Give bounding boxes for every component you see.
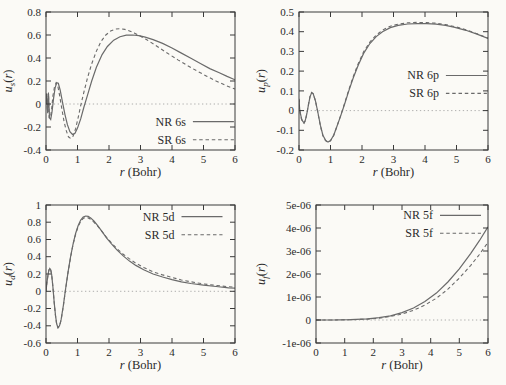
x-axis-label: r (Bohr)	[120, 358, 161, 372]
x-tick-label: 5	[457, 346, 463, 358]
figure-grid: 0123456-0.4-0.200.20.40.60.8r (Bohr)us(r…	[0, 0, 506, 385]
x-tick-label: 0	[296, 153, 302, 165]
x-tick-label: 6	[485, 346, 491, 358]
y-tick-label: 0	[306, 314, 312, 326]
x-axis-ticks: 0123456	[43, 12, 238, 165]
panel-5f-chart: 0123456-1e-0601e-062e-063e-064e-065e-06r…	[253, 193, 506, 385]
x-tick-label: 2	[106, 153, 112, 165]
x-tick-label: 6	[232, 153, 238, 165]
legend-label: NR 5f	[403, 208, 433, 222]
y-tick-label: 0	[289, 104, 295, 116]
x-tick-label: 6	[485, 153, 491, 165]
legend: NR 6sSR 6s	[156, 115, 234, 147]
x-axis-label: r (Bohr)	[381, 358, 422, 372]
y-tick-label: 0.8	[27, 216, 41, 228]
x-tick-label: 4	[422, 153, 428, 165]
curve-sr-5f	[316, 242, 488, 320]
x-axis-ticks: 0123456	[296, 12, 491, 165]
y-tick-label: -0.4	[24, 319, 42, 331]
chart-svg-bottom-left-5d: 0123456-0.6-0.4-0.200.20.40.60.81r (Bohr…	[0, 193, 253, 385]
panel-5d-chart: 0123456-0.6-0.4-0.200.20.40.60.81r (Bohr…	[0, 193, 253, 385]
x-axis-label: r (Bohr)	[120, 165, 161, 179]
x-axis-label: r (Bohr)	[373, 165, 414, 179]
x-tick-label: 3	[391, 153, 397, 165]
x-tick-label: 3	[138, 153, 144, 165]
x-tick-label: 6	[232, 346, 238, 358]
x-tick-label: 0	[313, 346, 319, 358]
y-axis-label: uf(r)	[254, 263, 270, 285]
panel-6p-chart: 0123456-0.2-0.100.10.20.30.40.5r (Bohr)u…	[253, 0, 506, 192]
x-tick-label: 4	[428, 346, 434, 358]
plot-frame	[46, 12, 235, 150]
y-tick-label: 1	[36, 199, 42, 211]
x-tick-label: 1	[75, 153, 81, 165]
y-tick-label: 0.3	[280, 45, 294, 57]
chart-svg-bottom-right-5f: 0123456-1e-0601e-062e-063e-064e-065e-06r…	[253, 193, 506, 385]
y-axis-ticks: -0.6-0.4-0.200.20.40.60.81	[24, 199, 235, 349]
series-group	[299, 22, 488, 142]
y-tick-label: 0.1	[280, 85, 294, 97]
curve-nr-5d	[46, 216, 235, 328]
y-axis-label: ud(r)	[1, 262, 17, 286]
x-tick-label: 2	[359, 153, 365, 165]
chart-svg-top-left-6s: 0123456-0.4-0.200.20.40.60.8r (Bohr)us(r…	[0, 0, 253, 192]
y-tick-label: -0.6	[24, 337, 42, 349]
curve-nr-5f	[316, 227, 488, 320]
x-tick-label: 5	[454, 153, 460, 165]
chart-svg-top-right-6p: 0123456-0.2-0.100.10.20.30.40.5r (Bohr)u…	[253, 0, 506, 192]
x-tick-label: 5	[201, 346, 207, 358]
legend: NR 6pSR 6p	[407, 68, 487, 100]
x-tick-label: 4	[169, 153, 175, 165]
y-tick-label: 0.4	[280, 25, 294, 37]
plot-frame	[46, 205, 235, 343]
x-tick-label: 3	[138, 346, 144, 358]
legend-label: NR 5d	[143, 210, 175, 224]
curve-sr-5d	[46, 218, 235, 328]
y-tick-label: 0.8	[27, 6, 41, 18]
x-tick-label: 2	[106, 346, 112, 358]
x-tick-label: 4	[169, 346, 175, 358]
y-tick-label: 0.6	[27, 29, 41, 41]
y-tick-label: 4e-06	[286, 222, 312, 234]
series-group	[316, 227, 488, 320]
legend-label: NR 6p	[407, 68, 439, 82]
x-tick-label: 3	[399, 346, 405, 358]
legend: NR 5fSR 5f	[403, 208, 481, 240]
x-tick-label: 1	[328, 153, 334, 165]
legend-label: SR 5f	[405, 226, 433, 240]
legend: NR 5dSR 5d	[143, 210, 223, 242]
legend-label: SR 5d	[145, 228, 175, 242]
legend-label: NR 6s	[156, 115, 187, 129]
series-group	[46, 216, 235, 328]
y-tick-label: -0.2	[277, 144, 294, 156]
y-tick-label: 0.4	[27, 250, 41, 262]
y-tick-label: 0	[36, 98, 42, 110]
y-tick-label: -0.1	[277, 124, 294, 136]
y-axis-label: up(r)	[254, 69, 270, 93]
y-tick-label: -0.2	[24, 121, 41, 133]
y-tick-label: 2e-06	[286, 268, 312, 280]
y-tick-label: -0.2	[24, 302, 41, 314]
y-tick-label: 5e-06	[286, 199, 312, 211]
y-tick-label: 0	[36, 285, 42, 297]
legend-label: SR 6p	[409, 86, 439, 100]
y-tick-label: 0.4	[27, 52, 41, 64]
x-tick-label: 0	[43, 346, 49, 358]
y-axis-label: us(r)	[1, 70, 17, 93]
y-tick-label: 1e-06	[286, 291, 312, 303]
y-tick-label: 0.6	[27, 233, 41, 245]
y-tick-label: 0.5	[280, 6, 294, 18]
y-axis-ticks: -1e-0601e-062e-063e-064e-065e-06	[282, 199, 488, 349]
y-tick-label: 3e-06	[286, 245, 312, 257]
legend-label: SR 6s	[158, 133, 187, 147]
y-tick-label: -0.4	[24, 144, 42, 156]
panel-6s-chart: 0123456-0.4-0.200.20.40.60.8r (Bohr)us(r…	[0, 0, 253, 192]
x-tick-label: 5	[201, 153, 207, 165]
x-tick-label: 2	[371, 346, 377, 358]
x-axis-ticks: 0123456	[43, 205, 238, 358]
x-tick-label: 0	[43, 153, 49, 165]
y-axis-ticks: -0.4-0.200.20.40.60.8	[24, 6, 235, 156]
x-axis-ticks: 0123456	[313, 205, 491, 358]
y-tick-label: 0.2	[280, 65, 294, 77]
y-tick-label: 0.2	[27, 268, 41, 280]
